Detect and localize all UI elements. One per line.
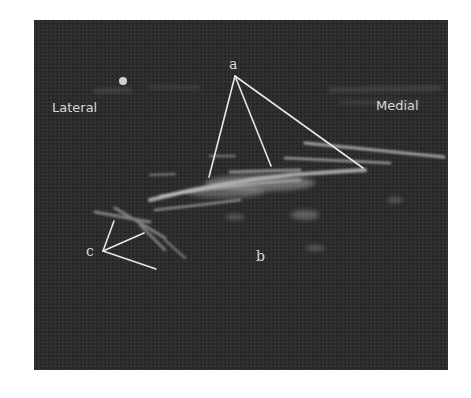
annotation-label-b: b	[256, 249, 265, 263]
annotation-label-c: c	[86, 244, 94, 258]
orientation-label-lateral: Lateral	[52, 101, 97, 114]
orientation-label-medial: Medial	[376, 99, 419, 112]
orientation-marker-dot	[119, 77, 127, 85]
lateral-echoes	[95, 208, 185, 258]
annotation-label-a: a	[229, 57, 237, 71]
bright-cortex	[185, 175, 403, 251]
